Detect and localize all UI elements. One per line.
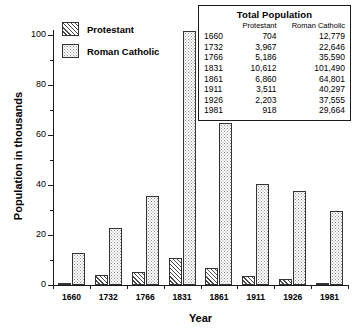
bar-roman-catholic xyxy=(109,228,122,285)
table-cell-catholic: 35,590 xyxy=(280,52,345,63)
legend-item: Roman Catholic xyxy=(62,44,182,58)
table-cell-year: 1861 xyxy=(204,73,234,84)
table-header-year xyxy=(204,21,234,31)
table-cell-protestant: 3,511 xyxy=(234,84,280,95)
table-row: 198191829,664 xyxy=(204,105,345,116)
bar-roman-catholic xyxy=(72,253,85,285)
population-table: Protestant Roman Catholic 166070412,7791… xyxy=(204,21,345,116)
bar-protestant xyxy=(58,283,71,285)
bar-protestant xyxy=(242,276,255,285)
bar-roman-catholic xyxy=(219,123,232,285)
table-cell-year: 1981 xyxy=(204,105,234,116)
table-cell-catholic: 64,801 xyxy=(280,73,345,84)
table-row: 183110,612101,490 xyxy=(204,63,345,74)
bar-protestant xyxy=(169,258,182,285)
x-tick xyxy=(348,285,349,289)
table-cell-catholic: 40,297 xyxy=(280,84,345,95)
table-cell-catholic: 22,646 xyxy=(280,42,345,53)
table-header-catholic: Roman Catholic xyxy=(280,21,345,31)
legend-label: Roman Catholic xyxy=(87,46,159,57)
table-cell-protestant: 918 xyxy=(234,105,280,116)
x-tick-label: 1831 xyxy=(162,292,202,302)
x-tick-label: 1660 xyxy=(51,292,91,302)
bar-protestant xyxy=(95,275,108,285)
x-tick xyxy=(274,285,275,289)
table-header-row: Protestant Roman Catholic xyxy=(204,21,345,31)
x-tick xyxy=(127,285,128,289)
inset-table-title: Total Population xyxy=(204,9,345,20)
table-cell-protestant: 6,860 xyxy=(234,73,280,84)
x-tick xyxy=(311,285,312,289)
x-tick xyxy=(237,285,238,289)
x-tick xyxy=(90,285,91,289)
table-cell-catholic: 101,490 xyxy=(280,63,345,74)
x-axis-title: Year xyxy=(53,312,348,324)
legend-swatch-protestant xyxy=(62,22,79,36)
legend-label: Protestant xyxy=(87,24,134,35)
table-cell-protestant: 5,186 xyxy=(234,52,280,63)
x-tick-label: 1732 xyxy=(88,292,128,302)
table-row: 19113,51140,297 xyxy=(204,84,345,95)
table-cell-protestant: 2,203 xyxy=(234,95,280,106)
table-cell-protestant: 10,612 xyxy=(234,63,280,74)
bar-protestant xyxy=(132,272,145,285)
x-tick-label: 1926 xyxy=(273,292,313,302)
x-tick-label: 1766 xyxy=(125,292,165,302)
table-row: 18616,86064,801 xyxy=(204,73,345,84)
x-tick-label: 1981 xyxy=(310,292,350,302)
x-tick xyxy=(164,285,165,289)
x-tick xyxy=(53,285,54,289)
table-cell-year: 1926 xyxy=(204,95,234,106)
bar-roman-catholic xyxy=(330,211,343,285)
bar-protestant xyxy=(205,268,218,285)
chart-figure: 020406080100 Population in thousands 166… xyxy=(0,0,359,331)
bar-roman-catholic xyxy=(183,31,196,285)
x-tick xyxy=(201,285,202,289)
bar-protestant xyxy=(279,279,292,285)
table-row: 166070412,779 xyxy=(204,31,345,42)
table-cell-catholic: 29,664 xyxy=(280,105,345,116)
bar-roman-catholic xyxy=(146,196,159,285)
table-cell-protestant: 704 xyxy=(234,31,280,42)
x-tick-label: 1861 xyxy=(199,292,239,302)
table-cell-protestant: 3,967 xyxy=(234,42,280,53)
x-tick-label: 1911 xyxy=(236,292,276,302)
bar-protestant xyxy=(316,283,329,285)
table-cell-catholic: 37,555 xyxy=(280,95,345,106)
table-row: 17323,96722,646 xyxy=(204,42,345,53)
chart-legend: ProtestantRoman Catholic xyxy=(62,22,182,66)
table-cell-year: 1660 xyxy=(204,31,234,42)
legend-swatch-roman-catholic xyxy=(62,44,79,58)
legend-item: Protestant xyxy=(62,22,182,36)
table-cell-catholic: 12,779 xyxy=(280,31,345,42)
table-row: 19262,20337,555 xyxy=(204,95,345,106)
table-cell-year: 1732 xyxy=(204,42,234,53)
table-header-protestant: Protestant xyxy=(234,21,280,31)
bar-roman-catholic xyxy=(293,191,306,285)
bar-roman-catholic xyxy=(256,184,269,285)
table-cell-year: 1911 xyxy=(204,84,234,95)
table-cell-year: 1766 xyxy=(204,52,234,63)
table-cell-year: 1831 xyxy=(204,63,234,74)
inset-data-table: Total Population Protestant Roman Cathol… xyxy=(198,5,351,121)
table-row: 17665,18635,590 xyxy=(204,52,345,63)
